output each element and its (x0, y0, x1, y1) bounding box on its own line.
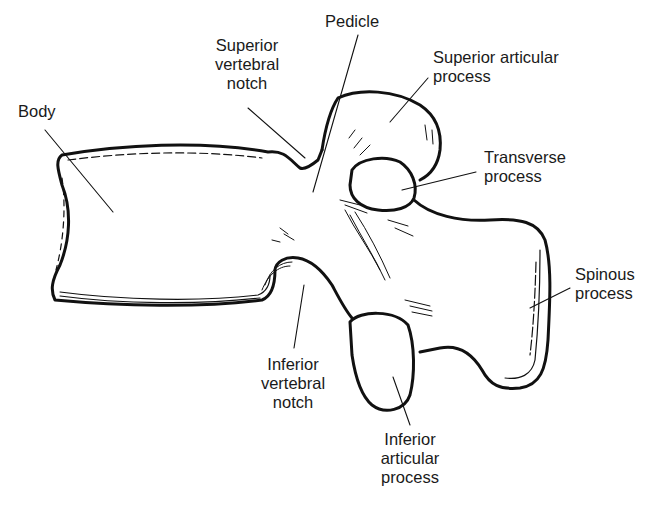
label-transverse-process: Transverse process (484, 148, 566, 186)
label-body: Body (18, 102, 56, 121)
label-inferior-vertebral-notch: Inferior vertebral notch (253, 355, 333, 412)
label-spinous-process: Spinous process (575, 265, 635, 303)
label-superior-vertebral-notch: Superior vertebral notch (207, 36, 287, 93)
spinous-process-outline (414, 200, 550, 388)
vertebra-diagram: Body Superior vertebral notch Pedicle Su… (0, 0, 666, 511)
body-outline (52, 145, 352, 318)
inferior-articular-process-outline (350, 313, 414, 410)
label-pedicle: Pedicle (325, 12, 379, 31)
label-superior-articular-process: Superior articular process (433, 48, 559, 86)
label-inferior-articular-process: Inferior articular process (370, 430, 450, 487)
transverse-process-outline (350, 158, 415, 210)
superior-articular-process-outline (322, 92, 440, 180)
vertebra-drawing (0, 0, 666, 511)
